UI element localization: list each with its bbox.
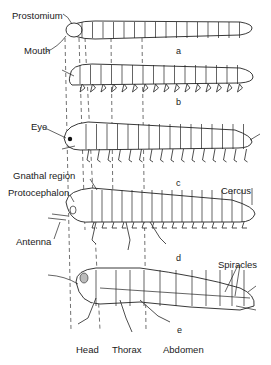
leg [150, 149, 153, 162]
leg [242, 222, 247, 228]
label-prostomium: Prostomium [12, 11, 63, 21]
parapodium [185, 84, 190, 92]
leg [108, 149, 111, 162]
leg [245, 149, 248, 162]
region-label-abdomen: Abdomen [163, 345, 204, 355]
stage-label-e: e [177, 326, 182, 335]
stage-label-a: a [176, 47, 181, 56]
label-eye: Eye [31, 122, 47, 132]
leg [162, 222, 167, 228]
organism-d-protocephalon [48, 188, 255, 250]
parapodium [101, 84, 106, 92]
leg [192, 222, 197, 228]
leg [161, 149, 164, 162]
leg [87, 149, 90, 162]
leg [140, 149, 143, 162]
leg [112, 222, 117, 228]
parapodium [112, 84, 117, 92]
leg [232, 222, 237, 228]
leg [172, 222, 177, 228]
leg [213, 149, 216, 162]
label-gnathal-region: Gnathal region [13, 171, 75, 181]
leg [202, 222, 207, 228]
region-label-head: Head [76, 345, 99, 355]
label-mouth: Mouth [24, 46, 50, 56]
leg [212, 222, 217, 228]
leg [98, 149, 101, 162]
parapodium [206, 84, 211, 92]
parapodium [238, 84, 243, 92]
leg [182, 149, 185, 162]
parapodium [133, 84, 138, 92]
label-protocephalon: Protocephalon [8, 188, 69, 198]
leg [224, 149, 227, 162]
leg [182, 222, 187, 228]
organism-e-insect [48, 268, 256, 332]
stage-label-b: b [176, 98, 181, 107]
label-cercus: Cercus [221, 186, 251, 196]
parapodium [196, 84, 201, 92]
leg [119, 149, 122, 162]
parapodium [175, 84, 180, 92]
leg [132, 222, 137, 228]
leg [126, 222, 130, 250]
stage-label-d: d [176, 254, 181, 263]
label-antenna: Antenna [16, 237, 51, 247]
stage-label-c: c [176, 179, 181, 188]
parapodium [164, 84, 169, 92]
leg [203, 149, 206, 162]
label-leaders [45, 14, 252, 296]
leg [171, 149, 174, 162]
organism-a-annelid [66, 21, 252, 39]
parapodium [217, 84, 222, 92]
parapodium [154, 84, 159, 92]
organism-b-segmented-legs [62, 64, 253, 92]
leg [129, 149, 132, 162]
leg [192, 149, 195, 162]
label-spiracles: Spiracles [218, 260, 257, 270]
parapodium [122, 84, 127, 92]
parapodium [227, 84, 232, 92]
parapodium [143, 84, 148, 92]
organism-c-myriapod [62, 122, 260, 162]
leg [222, 222, 227, 228]
leg [102, 222, 107, 228]
leg [234, 149, 237, 162]
region-label-thorax: Thorax [112, 345, 142, 355]
